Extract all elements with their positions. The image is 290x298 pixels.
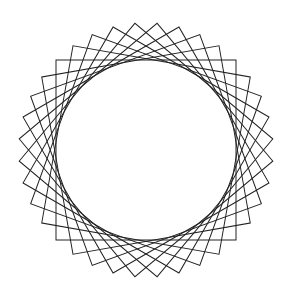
rotated-square xyxy=(23,27,269,273)
rotated-square xyxy=(56,60,236,240)
rosette-figure xyxy=(0,0,290,298)
rotated-squares-diagram xyxy=(0,0,290,298)
rotated-square xyxy=(42,46,251,255)
rotated-square xyxy=(42,46,251,255)
rotated-square xyxy=(31,35,262,266)
rotated-square xyxy=(23,27,269,273)
rotated-square xyxy=(19,23,273,277)
rotated-square xyxy=(31,35,262,266)
rotated-square xyxy=(19,23,273,277)
